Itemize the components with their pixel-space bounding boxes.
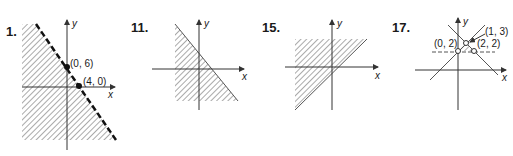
figure-11 <box>152 20 244 110</box>
point-0-2 <box>456 49 461 54</box>
point-2-2 <box>472 49 477 54</box>
x-axis-label: x <box>375 70 380 81</box>
figure-number-15: 15. <box>262 20 280 35</box>
x-axis-label: x <box>108 89 113 100</box>
point-label: (4, 0) <box>83 76 106 87</box>
figure-number-17: 17. <box>392 20 410 35</box>
x-axis-label: x <box>502 72 507 83</box>
y-axis-label: y <box>463 16 468 27</box>
point-label: (0, 2) <box>434 38 457 49</box>
x-axis-label: x <box>242 71 247 82</box>
point-label: (0, 6) <box>70 58 93 69</box>
point-1-3 <box>464 41 469 46</box>
figure-number-11: 11. <box>131 20 148 35</box>
figure-15 <box>285 20 378 110</box>
y-axis-label: y <box>337 18 342 29</box>
y-axis-label: y <box>72 18 77 29</box>
point-4-0 <box>76 83 82 89</box>
figure-number-1: 1. <box>6 24 17 39</box>
y-axis-label: y <box>204 18 209 29</box>
point-label: (1, 3) <box>485 26 508 37</box>
point-label: (2, 2) <box>477 38 500 49</box>
